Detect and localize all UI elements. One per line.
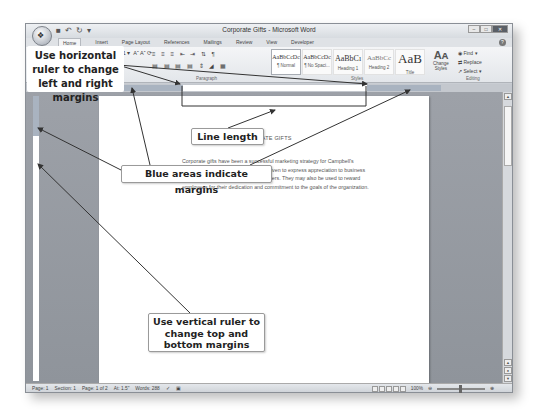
paragraph-row-1: ≡ ≡ ≡ ⇤ ⇥ ⇅ ¶ (152, 50, 217, 57)
zoom-in-icon[interactable]: ⊕ (490, 385, 494, 392)
shrink-font-icon[interactable]: Aˇ (140, 50, 146, 56)
increase-indent-icon[interactable]: ⇥ (190, 51, 197, 57)
style-preview: AaBbCc (365, 54, 393, 62)
status-left: Page: 1 Section: 1 Page: 1 of 2 At: 1.5"… (32, 385, 181, 392)
next-page-icon[interactable]: ▼ (504, 375, 512, 382)
zoom-slider[interactable] (437, 388, 485, 390)
select-label: Select (463, 68, 477, 74)
decrease-indent-icon[interactable]: ⇤ (180, 51, 187, 57)
print-layout-view-icon[interactable] (372, 386, 378, 392)
status-words[interactable]: Words: 288 (135, 385, 159, 392)
find-label: Find (463, 50, 473, 56)
find-button[interactable]: ◉ Find ▾ (458, 49, 482, 58)
tab-view[interactable]: View (266, 38, 277, 47)
grow-font-icon[interactable]: Aˆ (133, 50, 139, 56)
web-layout-icon[interactable] (386, 386, 392, 392)
style-preview: AaBbCcDc (272, 54, 300, 60)
style-name: Heading 2 (365, 65, 393, 70)
title-bar: ■ ↶ ↻ ▾ Corporate Gifts - Microsoft Word… (26, 24, 512, 38)
office-logo-icon: ❖ (37, 31, 44, 40)
editing-group-label: Editing (466, 76, 480, 81)
line-spacing-icon[interactable]: ⇕ (199, 63, 206, 69)
show-marks-icon[interactable]: ¶ (212, 51, 217, 57)
change-styles-icon: Aᴀ (430, 49, 452, 61)
styles-group-label: Styles (351, 76, 363, 81)
vertical-ruler[interactable] (33, 96, 39, 381)
window-title: Corporate Gifts - Microsoft Word (26, 26, 512, 33)
callout-vertical-ruler: Use vertical ruler to change top and bot… (148, 313, 265, 352)
callout-line-length: Line length (191, 128, 264, 145)
style-no-spacing[interactable]: AaBbCcDc ¶ No Spaci... (302, 49, 332, 75)
style-name: ¶ No Spaci... (303, 63, 331, 68)
status-page-count[interactable]: Page: 1 of 2 (82, 385, 108, 392)
tab-developer[interactable]: Developer (291, 38, 314, 47)
scroll-up-icon[interactable]: ▲ (504, 93, 512, 100)
align-center-icon[interactable]: ▤ (164, 63, 172, 69)
font-size-select[interactable]: 11 ▾ Aˆ Aˇ ⟳ (120, 50, 152, 56)
document-heading: CORPORATE GIFTS (99, 135, 429, 141)
style-name: Heading 1 (334, 66, 362, 71)
style-preview: AaB (396, 51, 424, 67)
replace-icon: ⇄ (458, 59, 462, 65)
zoom-level[interactable]: 100% (411, 385, 423, 392)
editing-group: ◉ Find ▾ ⇄ Replace ↗ Select ▾ (458, 49, 482, 76)
tab-mailings[interactable]: Mailings (204, 38, 222, 47)
help-icon[interactable]: ? (499, 39, 506, 46)
close-button[interactable]: ✕ (492, 25, 508, 33)
draft-view-icon[interactable] (400, 386, 406, 392)
paragraph-group-label: Paragraph (196, 76, 217, 81)
proofing-icon[interactable]: ✓ (166, 385, 170, 392)
zoom-out-icon[interactable]: ⊖ (428, 385, 432, 392)
numbering-icon[interactable]: ≡ (161, 51, 167, 57)
replace-label: Replace (463, 59, 481, 65)
style-preview: AaBbCcDc (303, 54, 331, 60)
select-icon: ↗ (458, 68, 462, 74)
vertical-ruler-text-area (33, 136, 39, 381)
status-at[interactable]: At: 1.5" (114, 385, 130, 392)
ruler-text-area (183, 85, 367, 91)
style-name: ¶ Normal (272, 63, 300, 68)
status-bar: Page: 1 Section: 1 Page: 1 of 2 At: 1.5"… (26, 383, 512, 392)
callout-blue-areas: Blue areas indicate margins (121, 165, 272, 183)
style-title[interactable]: AaB Title (395, 49, 425, 75)
shading-icon[interactable]: ◢ (209, 63, 216, 69)
tab-references[interactable]: References (164, 38, 190, 47)
outline-view-icon[interactable] (393, 386, 399, 392)
macro-record-icon[interactable]: ▣ (176, 385, 181, 392)
select-button[interactable]: ↗ Select ▾ (458, 67, 482, 76)
minimize-button[interactable]: – (468, 25, 480, 33)
justify-icon[interactable]: ▤ (187, 63, 195, 69)
maximize-button[interactable]: □ (480, 25, 492, 33)
full-screen-reading-icon[interactable] (379, 386, 385, 392)
scroll-thumb[interactable] (504, 106, 512, 166)
style-normal[interactable]: AaBbCcDc ¶ Normal (271, 49, 301, 75)
bullets-icon[interactable]: ≡ (152, 51, 158, 57)
view-buttons (372, 386, 406, 392)
previous-page-icon[interactable]: ▲ (504, 359, 512, 366)
sort-icon[interactable]: ⇅ (201, 51, 208, 57)
align-left-icon[interactable]: ▤ (152, 63, 160, 69)
office-button[interactable]: ❖ (32, 26, 52, 46)
vertical-scrollbar[interactable]: ▲ ▲ ● ▼ (502, 92, 512, 384)
style-heading-1[interactable]: AaBbCı Heading 1 (333, 49, 363, 75)
align-right-icon[interactable]: ▤ (175, 63, 183, 69)
multilevel-list-icon[interactable]: ≡ (170, 51, 176, 57)
binoculars-icon: ◉ (458, 50, 462, 56)
borders-icon[interactable]: ▦ (220, 63, 228, 69)
horizontal-ruler[interactable] (101, 85, 441, 91)
status-section[interactable]: Section: 1 (55, 385, 76, 392)
tab-review[interactable]: Review (236, 38, 252, 47)
status-right: 100% ⊖ ⊕ (372, 385, 494, 392)
callout-horizontal-ruler: Use horizontal ruler to change left and … (27, 46, 124, 92)
style-heading-2[interactable]: AaBbCc Heading 2 (364, 49, 394, 75)
style-name: Title (396, 70, 424, 75)
tab-page-layout[interactable]: Page Layout (122, 38, 150, 47)
window-controls: – □ ✕ (468, 25, 508, 33)
style-preview: AaBbCı (334, 54, 362, 63)
styles-gallery: AaBbCcDc ¶ Normal AaBbCcDc ¶ No Spaci...… (271, 49, 425, 75)
status-page[interactable]: Page: 1 (32, 385, 49, 392)
document-area: CORPORATE GIFTS Corporate gifts have bee… (26, 92, 504, 384)
select-browse-object-icon[interactable]: ● (504, 367, 512, 374)
replace-button[interactable]: ⇄ Replace (458, 58, 482, 67)
change-styles-button[interactable]: Aᴀ Change Styles (430, 49, 452, 71)
